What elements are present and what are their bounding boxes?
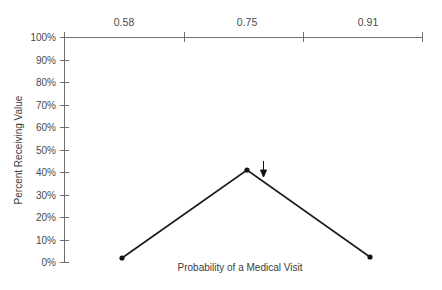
y-tick-label-20: 20% [36,212,56,223]
x-tick-label-0: 0.58 [114,16,135,28]
down-arrow-icon [261,161,267,177]
y-tick-label-60: 60% [36,122,56,133]
y-tick-label-70: 70% [36,100,56,111]
y-tick-label-0: 0% [42,257,57,268]
y-axis-title: Percent Receiving Value [13,95,24,204]
data-point-1 [244,167,249,172]
series-line-percent-receiving-value [122,170,370,258]
x-tick-label-2: 0.91 [358,16,379,28]
data-point-2 [367,254,372,259]
y-tick-label-80: 80% [36,77,56,88]
y-tick-label-50: 50% [36,145,56,156]
y-tick-label-40: 40% [36,167,56,178]
chart-container: 0.58 0.75 0.91 100% 90% 80% 70% 60% 50% … [0,0,442,290]
data-point-0 [119,255,124,260]
y-tick-label-100: 100% [30,32,56,43]
chart-canvas: 0.58 0.75 0.91 100% 90% 80% 70% 60% 50% … [0,0,442,290]
x-axis-title: Probability of a Medical Visit [178,262,303,273]
y-tick-label-30: 30% [36,190,56,201]
x-tick-label-1: 0.75 [237,16,258,28]
y-tick-label-10: 10% [36,235,56,246]
y-tick-label-90: 90% [36,55,56,66]
